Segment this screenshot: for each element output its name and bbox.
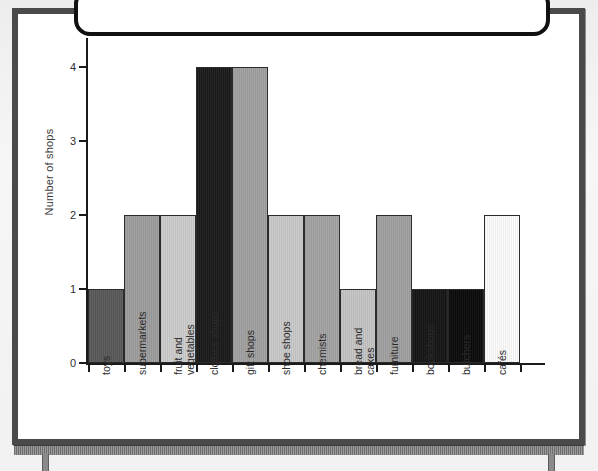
whiteboard-leg-left (42, 454, 49, 471)
x-tick-11 (484, 365, 486, 372)
x-axis-label-line-1: toys (100, 356, 112, 375)
x-tick-3 (196, 365, 198, 372)
x-axis-label-fruit-and-vegetables: fruit andvegetables (173, 337, 184, 375)
whiteboard-frame: Number of shops 01234 toyssupermarketsfr… (12, 8, 585, 445)
x-axis-label-line-1: bookshops (424, 324, 436, 375)
x-axis-label-shoe-shops: shoe shops (281, 321, 292, 375)
y-tick-0 (79, 362, 87, 364)
x-axis-label-clothes-shops: clothes shops (209, 311, 220, 375)
top-rounded-card (74, 0, 550, 36)
y-tick-label-2: 2 (60, 210, 76, 220)
plot-area: 01234 toyssupermarketsfruit andvegetable… (86, 44, 531, 364)
x-axis-label-furniture: furniture (389, 336, 400, 375)
y-tick-2 (79, 214, 87, 216)
x-axis-label-chemists: chemists (317, 334, 328, 375)
x-tick-7 (340, 365, 342, 372)
x-tick-4 (232, 365, 234, 372)
y-tick-label-0: 0 (60, 358, 76, 368)
x-axis-label-supermarkets: supermarkets (137, 311, 148, 375)
x-axis-label-line-1: supermarkets (136, 311, 148, 375)
y-tick-label-4: 4 (60, 62, 76, 72)
x-axis-label-bread-and-cakes: bread andcakes (353, 328, 364, 375)
x-tick-1 (124, 365, 126, 372)
x-axis-label-line-1: chemists (316, 334, 328, 375)
y-tick-4 (79, 66, 87, 68)
bar-gift-shops (232, 67, 268, 363)
x-axis-label-line-1: clothes shops (208, 311, 220, 375)
y-tick-1 (79, 288, 87, 290)
whiteboard-surface: Number of shops 01234 toyssupermarketsfr… (18, 14, 579, 439)
x-tick-8 (376, 365, 378, 372)
x-tick-5 (268, 365, 270, 372)
x-axis-label-toys: toys (101, 356, 112, 375)
x-axis-label-butchers: butchers (461, 335, 472, 375)
x-axis-label-line-1: gift shops (244, 330, 256, 375)
x-axis-label-line-1: butchers (460, 335, 472, 375)
bar-caf-s (484, 215, 520, 363)
x-axis-label-bookshops: bookshops (425, 324, 436, 375)
x-axis-label-caf-s: cafés (497, 350, 508, 375)
x-axis-label-line-2: cakes (365, 348, 376, 375)
y-tick-label-1: 1 (60, 284, 76, 294)
x-tick-6 (304, 365, 306, 372)
y-tick-3 (79, 140, 87, 142)
bar-texture (485, 216, 519, 362)
bar-toys (88, 289, 124, 363)
x-tick-end (520, 365, 522, 372)
x-tick-2 (160, 365, 162, 372)
x-axis-label-line-2: vegetables (185, 324, 196, 375)
y-tick-label-3: 3 (60, 136, 76, 146)
x-axis-label-line-1: furniture (388, 336, 400, 375)
x-axis-label-line-1: fruit and (172, 337, 184, 375)
screenshot-root: Number of shops 01234 toyssupermarketsfr… (0, 0, 598, 471)
bar-chart: Number of shops 01234 toyssupermarketsfr… (18, 14, 591, 451)
whiteboard-ledge (14, 445, 584, 455)
x-axis-label-line-1: shoe shops (280, 321, 292, 375)
y-axis-title: Number of shops (43, 112, 55, 232)
x-axis-label-line-1: bread and (352, 328, 364, 375)
x-tick-10 (448, 365, 450, 372)
x-axis-label-gift-shops: gift shops (245, 330, 256, 375)
x-axis-label-line-1: cafés (496, 350, 508, 375)
whiteboard-leg-right (548, 454, 555, 471)
bar-texture (89, 290, 123, 362)
x-tick-0 (88, 365, 90, 372)
bar-texture (233, 68, 267, 362)
x-tick-9 (412, 365, 414, 372)
